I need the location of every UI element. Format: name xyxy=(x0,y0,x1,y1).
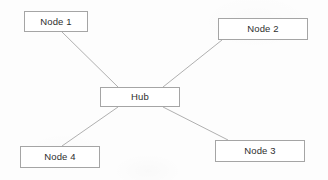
node-box-node3[interactable]: Node 3 xyxy=(215,140,305,162)
node-label-node1: Node 1 xyxy=(40,17,72,27)
node-box-node4[interactable]: Node 4 xyxy=(20,146,100,168)
node-box-node2[interactable]: Node 2 xyxy=(218,18,308,40)
node-label-hub: Hub xyxy=(131,92,149,102)
node-box-hub[interactable]: Hub xyxy=(100,87,180,107)
edge-hub-node3 xyxy=(163,107,228,140)
diagram-canvas: Node 1 Node 2 Hub Node 3 Node 4 xyxy=(0,0,328,180)
node-box-node1[interactable]: Node 1 xyxy=(24,11,88,32)
node-label-node2: Node 2 xyxy=(247,24,279,34)
node-label-node3: Node 3 xyxy=(244,146,276,156)
node-label-node4: Node 4 xyxy=(44,152,76,162)
edge-hub-node4 xyxy=(62,107,118,146)
edge-hub-node1 xyxy=(62,32,118,87)
edge-hub-node2 xyxy=(163,40,222,87)
